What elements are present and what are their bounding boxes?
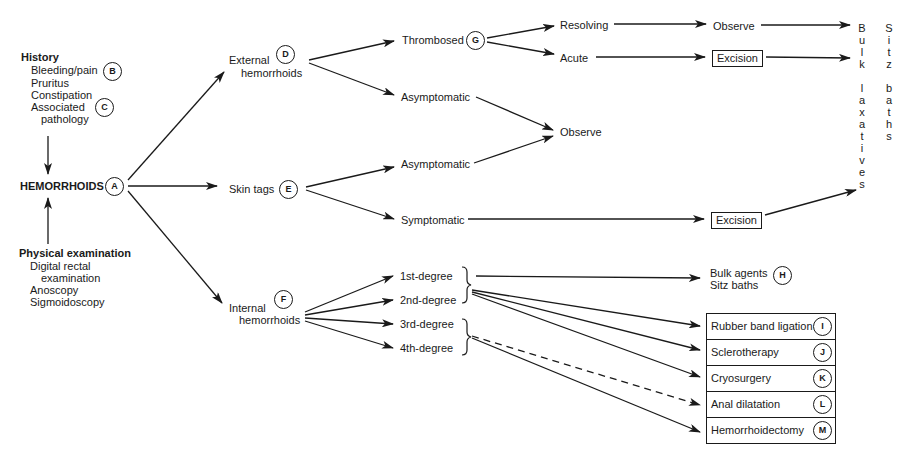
marker-h: H (773, 266, 792, 285)
marker-d: D (276, 45, 295, 64)
marker-i: I (813, 317, 832, 336)
internal-label: Internal (229, 302, 266, 314)
treatment-row-hemorrhoidectomy: Hemorrhoidectomy M (707, 418, 835, 443)
sitz-baths-vertical: S i t z b a t h s (883, 22, 895, 142)
physical-exam-title: Physical examination (19, 247, 131, 259)
skin-asymptomatic: Asymptomatic (401, 158, 470, 170)
resolving-label: Resolving (560, 19, 608, 31)
skin-tags-label: Skin tags (229, 183, 274, 195)
treatment-row-sclerotherapy: Sclerotherapy J (707, 340, 835, 366)
physical-exam-item: Digital rectal (30, 260, 91, 272)
history-item: Pruritus (31, 77, 69, 89)
conservative-line2: Sitz baths (710, 279, 758, 291)
history-title: History (21, 51, 59, 63)
thrombosed-label: Thrombosed (402, 34, 464, 46)
history-item: pathology (41, 113, 89, 125)
skin-symptomatic: Symptomatic (401, 214, 465, 226)
degree-3: 3rd-degree (400, 318, 454, 330)
marker-j: J (813, 343, 832, 362)
physical-exam-item: Sigmoidoscopy (30, 296, 105, 308)
bulk-laxatives-vertical: B u l k l a x a t i v e s (856, 22, 868, 190)
treatment-label: Cryosurgery (711, 372, 771, 384)
degree-4: 4th-degree (400, 342, 453, 354)
marker-c: C (95, 98, 114, 117)
excision-skin-box: Excision (711, 212, 762, 229)
root-label: HEMORRHOIDS (20, 180, 104, 192)
marker-m: M (813, 421, 832, 440)
acute-label: Acute (560, 52, 588, 64)
marker-a: A (105, 177, 124, 196)
treatment-row-anal-dilatation: Anal dilatation L (707, 392, 835, 418)
history-item: Bleeding/pain (31, 64, 98, 76)
excision-acute-box: Excision (712, 50, 763, 67)
treatment-table: Rubber band ligation I Sclerotherapy J C… (706, 313, 836, 444)
treatment-row-rubber-band: Rubber band ligation I (707, 314, 835, 340)
treatment-label: Hemorrhoidectomy (711, 424, 804, 436)
external-asymptomatic: Asymptomatic (401, 91, 470, 103)
observe-shared: Observe (560, 126, 602, 138)
marker-e: E (279, 180, 298, 199)
history-item: Associated (31, 101, 85, 113)
external-label-2: hemorrhoids (241, 67, 302, 79)
marker-g: G (466, 31, 485, 50)
treatment-row-cryosurgery: Cryosurgery K (707, 366, 835, 392)
physical-exam-item: Anoscopy (30, 284, 78, 296)
degree-1: 1st-degree (400, 270, 453, 282)
external-label: External (229, 54, 269, 66)
physical-exam-item: examination (41, 272, 100, 284)
marker-k: K (813, 369, 832, 388)
history-item: Constipation (31, 89, 92, 101)
internal-label-2: hemorrhoids (239, 314, 300, 326)
conservative-line1: Bulk agents (710, 267, 767, 279)
marker-f: F (274, 290, 293, 309)
marker-l: L (813, 395, 832, 414)
treatment-label: Sclerotherapy (711, 346, 779, 358)
observe-resolving: Observe (713, 20, 755, 32)
treatment-label: Rubber band ligation (711, 320, 813, 332)
marker-b: B (103, 62, 122, 81)
degree-2: 2nd-degree (400, 294, 456, 306)
treatment-label: Anal dilatation (711, 398, 780, 410)
